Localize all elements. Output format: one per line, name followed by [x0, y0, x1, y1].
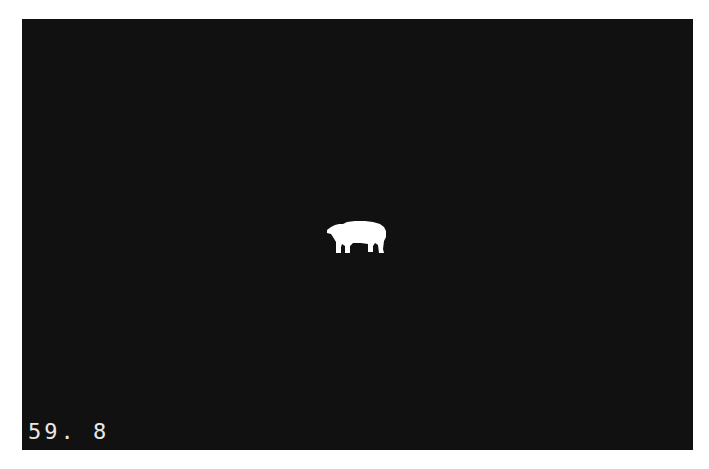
score-display: 59. 8	[28, 419, 109, 445]
polar-bear-icon	[325, 219, 389, 255]
game-canvas[interactable]: 59. 8	[22, 19, 693, 450]
